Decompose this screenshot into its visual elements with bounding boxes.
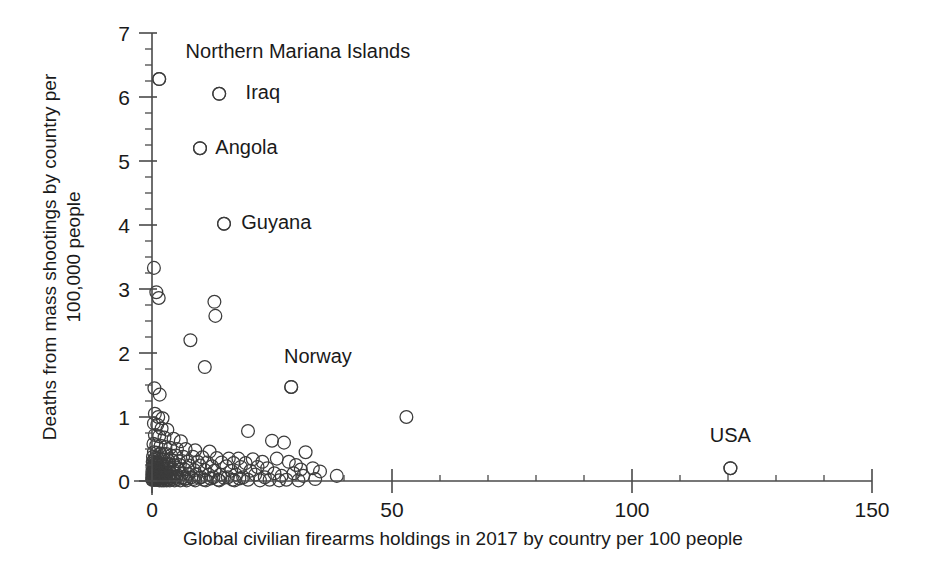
y-tick-label-5: 5 [118,150,130,173]
x-tick-label-150: 150 [854,498,889,521]
data-point [266,434,279,447]
point-label: Northern Mariana Islands [186,40,411,62]
y-tick-label-2: 2 [118,342,130,365]
highlighted-data-point [153,73,166,86]
point-label: Iraq [246,81,280,103]
annotation-guyana: Guyana [218,211,313,233]
y-tick-label-3: 3 [118,278,130,301]
data-point [282,455,295,468]
y-axis-title-line-2: 100,000 people [63,191,84,322]
point-label: Norway [284,345,352,367]
scatter-plot-svg: 050100150 01234567 Northern Mariana Isla… [0,0,927,570]
data-point [299,446,312,459]
data-points-layer [146,73,737,487]
highlighted-data-point [213,87,226,100]
data-point [400,411,413,424]
axes-layer: 050100150 01234567 [118,22,889,521]
data-point [208,295,221,308]
data-point [209,309,222,322]
y-axis-tick-labels: 01234567 [118,22,130,493]
x-axis-tick-labels: 050100150 [146,498,889,521]
highlighted-data-point [218,217,231,230]
y-tick-label-1: 1 [118,406,130,429]
data-point [184,334,197,347]
point-annotations-layer: Northern Mariana IslandsIraqAngolaGuyana… [153,40,752,475]
annotation-iraq: Iraq [213,81,280,103]
annotation-norway: Norway [284,345,352,393]
y-axis-title: Deaths from mass shootings by country pe… [39,73,84,440]
y-axis-title-line-1: Deaths from mass shootings by country pe… [39,73,60,440]
x-tick-label-50: 50 [380,498,403,521]
data-point [246,453,259,466]
x-tick-label-100: 100 [614,498,649,521]
x-axis-title: Global civilian firearms holdings in 201… [183,528,743,549]
y-tick-label-4: 4 [118,214,130,237]
annotation-angola: Angola [194,136,279,158]
highlighted-data-point [724,462,737,475]
point-label: Guyana [241,211,312,233]
y-tick-label-7: 7 [118,22,130,45]
highlighted-data-point [285,381,298,394]
annotation-usa: USA [710,424,752,475]
y-tick-label-0: 0 [118,470,130,493]
point-label: Angola [215,136,278,158]
y-tick-label-6: 6 [118,86,130,109]
point-label: USA [710,424,752,446]
data-point [278,436,291,449]
scatter-plot-figure: 050100150 01234567 Northern Mariana Isla… [0,0,927,570]
x-tick-label-0: 0 [146,498,158,521]
data-point [314,465,327,478]
data-point [242,425,255,438]
highlighted-data-point [194,142,207,155]
data-point [270,452,283,465]
data-point [198,361,211,374]
annotation-northern-mariana-islands: Northern Mariana Islands [153,40,410,86]
